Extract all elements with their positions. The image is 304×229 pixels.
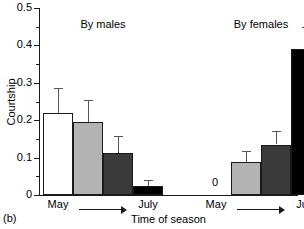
y-tick-label: 0 — [0, 189, 32, 200]
error-bar-cap — [84, 100, 93, 101]
error-bar-cap — [114, 136, 123, 137]
y-tick-minor — [36, 102, 39, 103]
y-tick-minor — [36, 64, 39, 65]
bar — [261, 145, 291, 195]
y-tick-label: 0.3 — [0, 77, 32, 88]
arrow-shaft — [237, 209, 279, 210]
y-tick-major — [34, 195, 39, 196]
bar — [291, 49, 304, 195]
zero-value-annotation: 0 — [212, 176, 218, 188]
y-tick-label: 0.4 — [0, 39, 32, 50]
bar — [133, 186, 163, 195]
x-tick-label: May — [38, 198, 78, 210]
error-bar-stem — [118, 136, 119, 153]
x-tick-label: July — [286, 198, 304, 210]
error-bar-stem — [276, 131, 277, 144]
error-bar-cap — [272, 131, 281, 132]
y-tick-minor — [36, 139, 39, 140]
error-bar-stem — [88, 100, 89, 122]
y-tick-major — [34, 158, 39, 159]
y-tick-major — [34, 45, 39, 46]
error-bar-cap — [302, 27, 304, 28]
y-tick-label: 0.5 — [0, 2, 32, 13]
error-bar-stem — [58, 88, 59, 112]
error-bar-cap — [242, 151, 251, 152]
group-title: By females — [221, 18, 301, 30]
group-title: By males — [63, 18, 143, 30]
x-tick-label: May — [196, 198, 236, 210]
bar — [73, 122, 103, 195]
plot-area — [40, 8, 298, 195]
y-tick-major — [34, 83, 39, 84]
error-bar-cap — [54, 88, 63, 89]
arrow-shaft — [79, 209, 121, 210]
y-tick-major — [34, 8, 39, 9]
error-bar-cap — [144, 180, 153, 181]
x-axis-label: Time of season — [39, 213, 298, 225]
y-tick-minor — [36, 176, 39, 177]
y-tick-label: 0.1 — [0, 152, 32, 163]
y-tick-label: 0.2 — [0, 114, 32, 125]
error-bar-stem — [246, 151, 247, 162]
y-axis-label: Courtship — [5, 62, 17, 142]
x-axis-line — [39, 195, 298, 196]
courtship-bar-chart-panel-b: Courtship 00.10.20.30.40.5 By malesBy fe… — [0, 0, 304, 229]
y-tick-minor — [36, 27, 39, 28]
x-tick-label: July — [128, 198, 168, 210]
bar — [231, 162, 261, 195]
bar — [103, 153, 133, 195]
bar — [43, 113, 73, 195]
panel-label: (b) — [3, 212, 16, 224]
y-tick-major — [34, 120, 39, 121]
